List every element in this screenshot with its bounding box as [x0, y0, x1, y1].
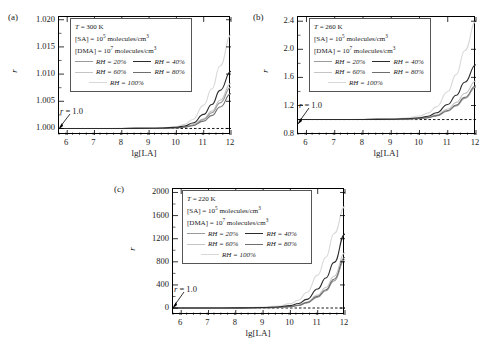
panel-a-y-axis-title: r: [9, 65, 19, 77]
legend-swatch-icon: [372, 61, 390, 62]
legend-swatch-icon: [245, 244, 263, 245]
y-tick-label: 2000: [143, 186, 169, 196]
series-curve-rh-0: [59, 87, 231, 128]
panel-c-annotation-arrow: [170, 290, 190, 314]
legend-entry-rh-2: RH = 60%: [75, 67, 126, 78]
y-tick-label: 1.020: [27, 14, 55, 24]
panel-a: (a) r lg[LA] r = 1.0 T = 300 K[SA] = 105…: [0, 0, 240, 172]
x-tick-label: 11: [196, 137, 210, 147]
panel-b: (b) r lg[LA] r = 1.0 T = 260 K[SA] = 105…: [245, 0, 485, 172]
legend-entry-rh-0: RH = 20%: [187, 229, 238, 240]
legend-swatch-icon: [133, 72, 151, 73]
legend-entry-rh-4: RH = 100%: [89, 78, 144, 89]
legend-row: RH = 20%RH = 40%: [187, 229, 307, 240]
legend-entry-rh-3: RH = 80%: [372, 67, 423, 78]
y-tick-label: 2.0: [276, 43, 294, 53]
x-tick-label: 8: [355, 137, 369, 147]
x-tick-label: 8: [114, 137, 128, 147]
y-tick-label: 1.000: [27, 122, 55, 132]
legend-entry-rh-1: RH = 40%: [245, 229, 296, 240]
legend-entry-rh-2: RH = 60%: [314, 67, 365, 78]
x-tick-label: 8: [228, 317, 242, 327]
legend-entry-rh-1: RH = 40%: [133, 57, 184, 68]
legend-entry-rh-0: RH = 20%: [75, 57, 126, 68]
legend-swatch-icon: [75, 61, 93, 62]
series-curve-rh-3: [59, 94, 231, 129]
x-tick-label: 6: [298, 137, 312, 147]
legend-entry-rh-1: RH = 40%: [372, 57, 423, 68]
y-tick-label: 0.8: [276, 128, 294, 138]
y-tick-label: 1.010: [27, 68, 55, 78]
panel-c-legend: T = 220 K[SA] = 105 molecules/cm3[DMA] =…: [182, 190, 312, 264]
legend-sa-concentration: [SA] = 105 molecules/cm3: [187, 205, 307, 217]
legend-label: RH = 80%: [154, 67, 184, 78]
legend-entry-rh-3: RH = 80%: [245, 239, 296, 250]
legend-temperature: T = 300 K: [75, 22, 187, 33]
x-tick-label: 6: [59, 137, 73, 147]
panel-a-x-axis-title: lg[LA]: [58, 148, 230, 158]
legend-swatch-icon: [89, 82, 107, 83]
x-tick-label: 7: [327, 137, 341, 147]
y-tick-label: 400: [143, 279, 169, 289]
legend-temperature: T = 260 K: [314, 22, 426, 33]
legend-swatch-icon: [314, 72, 332, 73]
legend-label: RH = 20%: [208, 229, 238, 240]
y-tick-label: 0: [143, 302, 169, 312]
legend-swatch-icon: [133, 61, 151, 62]
panel-c: (c) r lg[LA] r = 1.0 T = 220 K[SA] = 105…: [112, 172, 374, 352]
legend-swatch-icon: [245, 233, 263, 234]
legend-swatch-icon: [372, 72, 390, 73]
panel-c-x-axis-title: lg[LA]: [172, 328, 344, 338]
legend-dma-concentration: [DMA] = 107 molecules/cm3: [314, 45, 426, 57]
panel-b-legend: T = 260 K[SA] = 105 molecules/cm3[DMA] =…: [309, 18, 431, 92]
legend-temperature: T = 220 K: [187, 194, 307, 205]
x-tick-label: 11: [310, 317, 324, 327]
x-tick-label: 9: [383, 137, 397, 147]
legend-label: RH = 80%: [266, 239, 296, 250]
legend-dma-concentration: [DMA] = 107 molecules/cm3: [75, 45, 187, 57]
legend-row: RH = 100%RH = 20%: [75, 78, 187, 89]
x-tick-label: 6: [173, 317, 187, 327]
panel-b-x-axis-title: lg[LA]: [297, 148, 475, 158]
legend-entry-rh-0: RH = 20%: [314, 57, 365, 68]
y-tick-label: 800: [143, 256, 169, 266]
legend-label: RH = 100%: [222, 250, 256, 261]
legend-label: RH = 80%: [393, 67, 423, 78]
legend-label: RH = 60%: [208, 239, 238, 250]
legend-dma-concentration: [DMA] = 107 molecules/cm3: [187, 217, 307, 229]
legend-label: RH = 100%: [110, 78, 144, 89]
panel-c-label: (c): [114, 184, 124, 194]
y-tick-label: 1.005: [27, 95, 55, 105]
series-curve-rh-3: [173, 257, 345, 308]
legend-label: RH = 60%: [335, 67, 365, 78]
x-tick-label: 7: [86, 137, 100, 147]
legend-row: RH = 100%RH = 20%: [187, 250, 307, 261]
y-tick-label: 1.6: [276, 71, 294, 81]
x-tick-label: 10: [282, 317, 296, 327]
y-tick-label: 1.015: [27, 41, 55, 51]
legend-swatch-icon: [187, 233, 205, 234]
x-tick-label: 9: [255, 317, 269, 327]
legend-swatch-icon: [314, 61, 332, 62]
legend-row: RH = 60%RH = 80%: [75, 67, 187, 78]
y-tick-label: 1200: [143, 233, 169, 243]
legend-label: RH = 20%: [96, 57, 126, 68]
legend-row: RH = 20%RH = 40%: [314, 57, 426, 68]
legend-row: RH = 20%RH = 40%: [75, 57, 187, 68]
x-tick-label: 7: [200, 317, 214, 327]
legend-sa-concentration: [SA] = 105 molecules/cm3: [314, 33, 426, 45]
panel-b-annotation-arrow: [295, 106, 315, 130]
legend-swatch-icon: [328, 82, 346, 83]
legend-entry-rh-2: RH = 60%: [187, 239, 238, 250]
panel-b-label: (b): [253, 12, 264, 22]
x-tick-label: 11: [440, 137, 454, 147]
legend-label: RH = 40%: [154, 57, 184, 68]
legend-label: RH = 40%: [266, 229, 296, 240]
series-curve-rh-0: [173, 260, 345, 309]
panel-a-legend: T = 300 K[SA] = 105 molecules/cm3[DMA] =…: [70, 18, 192, 92]
legend-row: RH = 100%RH = 20%: [314, 78, 426, 89]
x-tick-label: 12: [468, 137, 482, 147]
legend-label: RH = 100%: [349, 78, 383, 89]
x-tick-label: 10: [411, 137, 425, 147]
y-tick-label: 1600: [143, 210, 169, 220]
